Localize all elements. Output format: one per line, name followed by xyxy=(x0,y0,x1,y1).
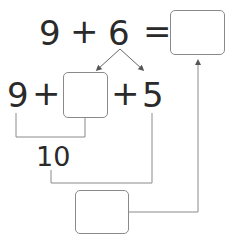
equation-left-operand: 9 xyxy=(39,16,61,50)
decomp-remainder: 5 xyxy=(142,78,164,112)
decomp-plus-1: + xyxy=(32,76,61,110)
decomp-plus-2: + xyxy=(111,76,140,110)
equation-operator: + xyxy=(70,14,99,48)
split-box[interactable] xyxy=(63,72,108,118)
make-ten-value: 10 xyxy=(36,143,70,170)
equation-equals: = xyxy=(143,14,172,48)
decomp-first: 9 xyxy=(7,78,29,112)
make-ten-diagram: 9 + 6 = 9 + + 5 10 xyxy=(0,0,234,244)
answer-box[interactable] xyxy=(170,10,225,55)
equation-right-operand: 6 xyxy=(108,16,130,50)
final-box[interactable] xyxy=(75,190,129,234)
